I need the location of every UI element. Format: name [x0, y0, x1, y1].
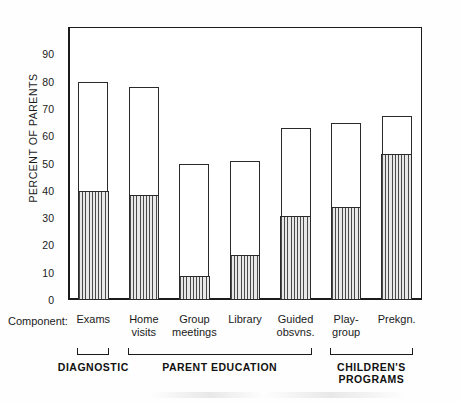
y-axis-tick-label: 30 — [42, 212, 54, 224]
bar-hatched-segment — [129, 195, 160, 300]
stacked-bar — [129, 87, 159, 300]
x-axis-category-label-line: group — [304, 326, 388, 339]
group-label-line: PARENT EDUCATION — [150, 361, 290, 373]
bar-series-container — [68, 27, 422, 300]
group-bracket — [77, 348, 109, 355]
stacked-bar — [281, 128, 311, 300]
y-axis-tick-label: 50 — [42, 158, 54, 170]
stacked-bar — [382, 116, 412, 300]
stacked-bar — [179, 164, 209, 301]
bar-hatched-segment — [230, 255, 261, 300]
bar-hatched-segment — [381, 154, 412, 300]
bar-hatched-segment — [179, 276, 210, 301]
scan-artifact — [150, 392, 450, 398]
bar-chart-figure: PERCENT OF PARENTS 0102030405060708090 C… — [0, 0, 460, 402]
y-axis-tick-label: 20 — [42, 239, 54, 251]
stacked-bar — [331, 123, 361, 300]
y-axis-tick-labels: 0102030405060708090 — [0, 0, 68, 402]
group-label: DIAGNOSTIC — [23, 361, 163, 373]
group-label-line: DIAGNOSTIC — [23, 361, 163, 373]
y-axis-tick-label: 80 — [42, 76, 54, 88]
bar-hatched-segment — [331, 207, 362, 300]
y-axis-tick-label: 0 — [48, 294, 54, 306]
y-axis-tick-label: 40 — [42, 185, 54, 197]
group-bracket — [330, 348, 413, 355]
stacked-bar — [230, 161, 260, 300]
y-axis-tick-label: 10 — [42, 267, 54, 279]
bar-hatched-segment — [78, 191, 109, 300]
group-label-line: CHILDREN'S — [301, 361, 441, 373]
stacked-bar — [78, 82, 108, 300]
bar-hatched-segment — [280, 216, 311, 301]
x-axis-category-label-line: Prekgn. — [355, 313, 439, 326]
group-label: PARENT EDUCATION — [150, 361, 290, 373]
group-bracket — [128, 348, 312, 355]
x-axis-category-label-line: meetings — [152, 326, 236, 339]
y-axis-tick-label: 70 — [42, 103, 54, 115]
group-label: CHILDREN'SPROGRAMS — [301, 361, 441, 385]
x-axis-category-label: Prekgn. — [355, 313, 439, 326]
y-axis-tick-label: 60 — [42, 130, 54, 142]
group-label-line: PROGRAMS — [301, 373, 441, 385]
y-axis-tick-label: 90 — [42, 48, 54, 60]
